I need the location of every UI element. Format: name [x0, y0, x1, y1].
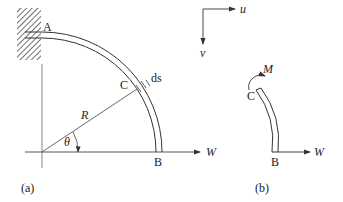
- curved-beam-inner: [25, 38, 156, 152]
- beam-segment-b-inner: [256, 90, 273, 152]
- point-b-label: B: [154, 156, 162, 168]
- theta-arc: [73, 132, 78, 152]
- beam-segment-b-outer: [261, 88, 279, 152]
- force-w-label-b: W: [314, 146, 324, 158]
- moment-label: M: [263, 63, 273, 75]
- v-axis-label: v: [200, 47, 205, 59]
- moment-arrow: [249, 75, 265, 90]
- theta-label: θ: [64, 136, 70, 148]
- point-b-label-b: B: [271, 156, 279, 168]
- radius-label: R: [81, 109, 88, 121]
- point-c-label-b: C: [247, 90, 255, 102]
- fixed-wall: [17, 8, 41, 60]
- force-w-label: W: [206, 146, 216, 158]
- caption-b: (b): [255, 182, 269, 194]
- caption-a: (a): [21, 182, 34, 194]
- u-axis-label: u: [240, 3, 246, 15]
- point-a-label: A: [43, 21, 52, 33]
- ds-dimension: [146, 80, 150, 86]
- curved-beam-figure: A C ds R θ B W (a) u v M C B W (b): [0, 0, 343, 202]
- point-c-label: C: [120, 79, 128, 91]
- radius-line: [42, 89, 137, 152]
- ds-label: ds: [151, 72, 162, 84]
